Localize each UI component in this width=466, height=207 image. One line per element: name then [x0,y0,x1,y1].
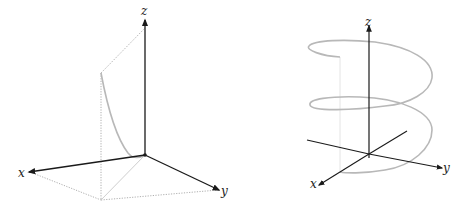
diagonal-line [101,155,145,200]
x-axis [29,155,145,172]
z-axis-label: z [364,15,372,29]
left-panel: z x y [18,4,228,200]
y-axis-label: y [442,161,450,175]
x-axis-back [307,140,369,154]
figure-canvas: z x y z x y [0,0,466,207]
space-curve [101,73,145,158]
x-axis [319,154,369,185]
x-axis-label: x [18,166,25,180]
y-axis [145,155,219,190]
y-axis [369,154,442,168]
origin-point [143,153,147,157]
right-panel: z x y [307,15,450,191]
y-axis-back [369,131,407,154]
x-axis-label: x [310,177,317,191]
z-axis-label: z [140,4,148,18]
projection-lines [30,28,218,200]
y-axis-label: y [220,184,228,198]
